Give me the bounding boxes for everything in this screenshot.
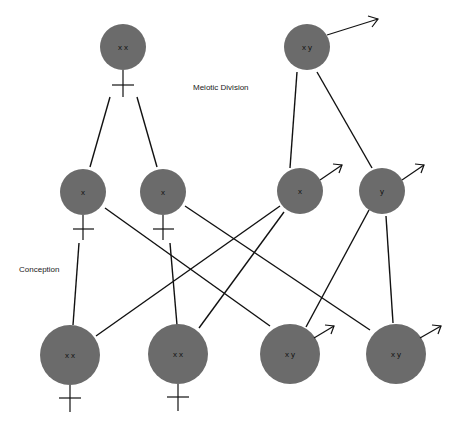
chromosomes-egg-1: x xyxy=(81,188,85,197)
line-spermy-child3 xyxy=(306,210,369,327)
offspring-child-4: x y xyxy=(366,324,441,384)
chromosomes-child-2: x x xyxy=(173,350,183,359)
female-symbol-icon xyxy=(153,215,174,240)
line-egg1-child3 xyxy=(105,208,270,326)
female-symbol-icon xyxy=(167,384,189,411)
offspring-child-3: x y xyxy=(260,324,334,384)
line-egg2-child4 xyxy=(185,206,370,330)
offspring-child-2: x x xyxy=(148,324,208,411)
gamete-sperm-y: y xyxy=(359,164,424,214)
male-symbol-icon xyxy=(327,16,378,35)
gamete-sperm-x: x xyxy=(277,164,342,214)
line-spermy-child4 xyxy=(386,216,393,323)
chromosomes-egg-2: x xyxy=(161,188,165,197)
female-symbol-icon xyxy=(73,215,94,240)
chromosomes-child-3: x y xyxy=(285,350,295,359)
line-mother-egg2 xyxy=(137,97,157,167)
male-symbol-icon xyxy=(402,164,424,180)
chromosomes-father: x y xyxy=(302,43,312,52)
chromosomes-child-1: x x xyxy=(65,351,75,360)
connection-lines xyxy=(73,72,393,336)
female-symbol-icon xyxy=(59,385,81,412)
line-egg2-child2 xyxy=(170,243,177,325)
gamete-egg-1: x xyxy=(60,169,106,240)
chromosomes-sperm-y: y xyxy=(380,187,384,196)
line-spermx-child1 xyxy=(96,206,280,336)
offspring-child-1: x x xyxy=(40,325,100,412)
chromosomes-mother: x x xyxy=(118,43,128,52)
meiotic-division-label: Meiotic Division xyxy=(193,83,249,92)
gamete-egg-2: x xyxy=(140,169,186,240)
parent-mother: x x xyxy=(100,24,146,97)
male-symbol-icon xyxy=(314,325,334,338)
parent-father: x y xyxy=(284,16,378,70)
line-spermx-child2 xyxy=(199,212,284,328)
line-egg1-child1 xyxy=(73,243,79,325)
line-father-spermy xyxy=(317,72,372,168)
chromosomes-child-4: x y xyxy=(391,350,401,359)
female-symbol-icon xyxy=(112,70,134,97)
line-mother-egg1 xyxy=(90,97,110,167)
chromosomes-sperm-x: x xyxy=(298,187,302,196)
male-symbol-icon xyxy=(320,164,342,180)
male-symbol-icon xyxy=(420,325,441,338)
sex-determination-diagram: x x x y x x x xyxy=(0,0,459,426)
conception-label: Conception xyxy=(19,265,59,274)
line-father-spermx xyxy=(290,72,297,168)
